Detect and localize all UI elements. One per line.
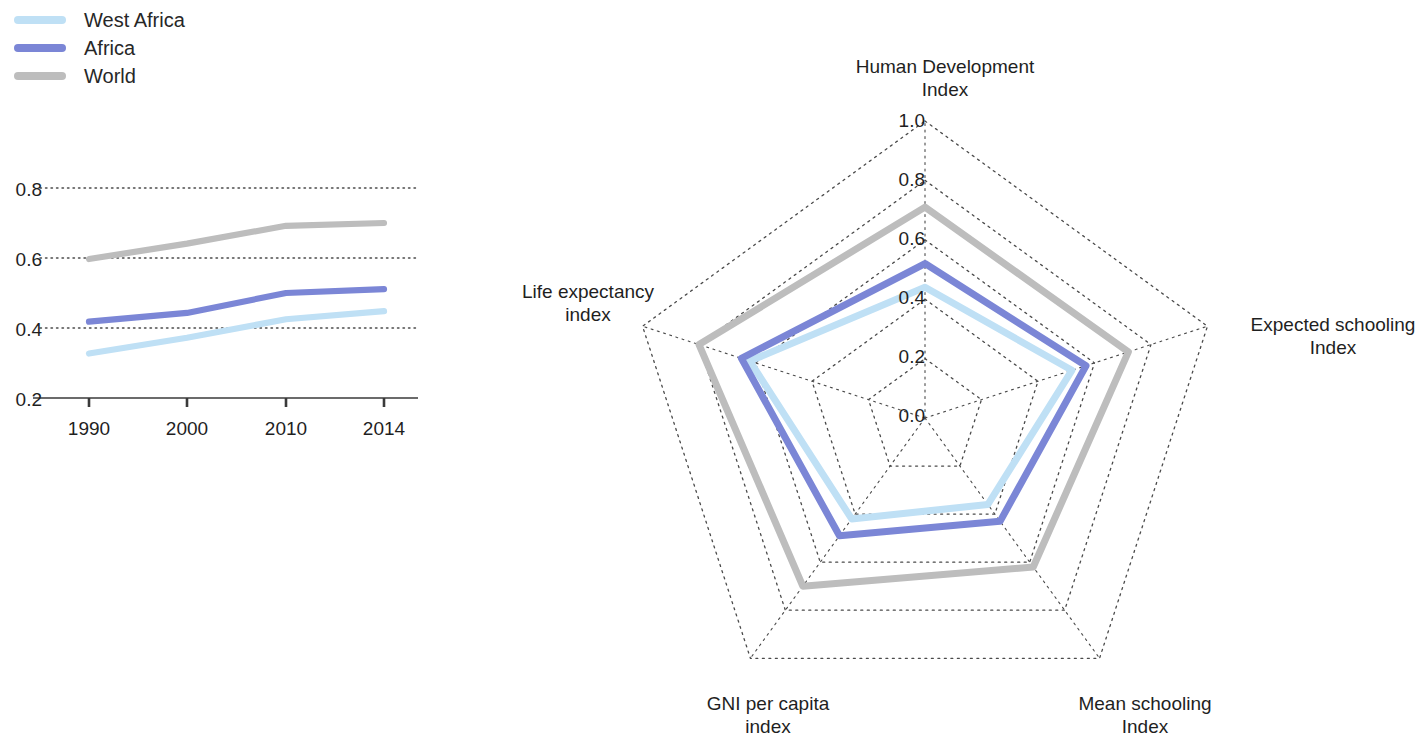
radar-rtick-1.0: 1.0 [877,110,925,132]
radar-axis-label-expected-schooling-index: Expected schooling Index [1248,313,1418,359]
legend-item-world: World [14,62,185,90]
legend-swatch-west-africa [14,16,66,24]
radar-rtick-0.2: 0.2 [877,346,925,368]
line-chart: 0.8 0.6 0.4 0.2 1990 2000 2010 2014 [0,150,450,430]
legend-label-west-africa: West Africa [84,10,185,30]
radar-rtick-0.0: 0.0 [877,405,925,427]
line-chart-xtick-2010: 2010 [251,418,321,440]
line-chart-ytick-0.4: 0.4 [2,319,42,341]
radar-rtick-0.6: 0.6 [877,228,925,250]
line-chart-series-world [89,223,384,259]
line-chart-ytick-0.2: 0.2 [2,389,42,411]
radar-spoke [925,418,1100,658]
radar-rtick-0.4: 0.4 [877,287,925,309]
line-chart-ytick-0.6: 0.6 [2,249,42,271]
line-chart-plot [0,150,450,430]
legend-label-world: World [84,66,136,86]
line-chart-xtick-1990: 1990 [54,418,124,440]
legend-swatch-africa [14,44,66,52]
radar-chart: 1.0 0.8 0.6 0.4 0.2 0.0 Human Developmen… [470,0,1405,737]
legend-label-africa: Africa [84,38,135,58]
legend-item-africa: Africa [14,34,185,62]
legend-item-west-africa: West Africa [14,6,185,34]
radar-axis-label-human-development-index: Human Development Index [855,55,1035,101]
radar-rtick-0.8: 0.8 [877,169,925,191]
radar-chart-plot [470,0,1405,737]
radar-axis-label-gni-per-capita-index: GNI per capita index [678,692,858,737]
radar-axis-label-life-expectancy-index: Life expectancy index [498,280,678,326]
line-chart-xtick-2000: 2000 [152,418,222,440]
legend-swatch-world [14,72,66,80]
legend: West Africa Africa World [14,6,185,90]
line-chart-ytick-0.8: 0.8 [2,179,42,201]
radar-axis-label-mean-schooling-index: Mean schooling Index [1055,692,1235,737]
radar-gridline-ring [699,180,1151,610]
line-chart-xtick-2014: 2014 [349,418,419,440]
